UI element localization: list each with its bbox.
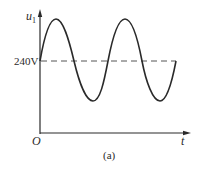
- waveform-diagram: u1 240V O t (a): [0, 0, 202, 173]
- x-axis-label: t: [181, 134, 185, 148]
- figure-caption: (a): [103, 149, 116, 162]
- dc-level-label: 240V: [14, 55, 39, 67]
- y-axis-label: u1: [26, 9, 36, 25]
- y-axis-arrow-icon: [38, 9, 42, 17]
- origin-label: O: [32, 134, 41, 148]
- sine-waveform: [40, 19, 176, 101]
